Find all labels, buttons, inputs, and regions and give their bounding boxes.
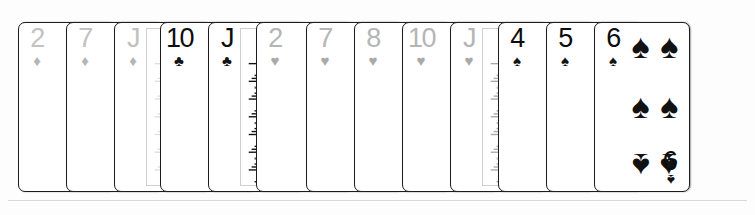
card-6-of-spade[interactable]: 6♠♠♠♠♠♠♠♠9 bbox=[594, 22, 690, 192]
pip-spade-icon: ♠ bbox=[632, 149, 650, 183]
card-index-corner: 8♥ bbox=[360, 25, 386, 68]
card-suit-pip-spade-icon: ♠ bbox=[658, 173, 684, 188]
card-fan-stage: 2♦♦7♦♦♦♦J♦♦10♣♣♣♣♣J♣♣2♥♥7♥♥♥♥8♥♥♥♥10♥♥♥♥… bbox=[0, 0, 755, 215]
card-suit-pip-club-icon: ♣ bbox=[214, 53, 240, 68]
card-suit-pip-diamond-icon: ♦ bbox=[120, 53, 146, 68]
card-rank-label: 2 bbox=[262, 25, 288, 52]
card-rank-label: 4 bbox=[504, 25, 530, 52]
pip-spade-icon: ♠ bbox=[632, 89, 650, 123]
card-rank-label: 10 bbox=[408, 25, 434, 52]
card-suit-pip-club-icon: ♣ bbox=[166, 53, 192, 68]
card-suit-pip-diamond-icon: ♦ bbox=[72, 53, 98, 68]
card-suit-pip-heart-icon: ♥ bbox=[262, 53, 288, 68]
card-rank-label: 7 bbox=[72, 25, 98, 52]
card-rank-label: 5 bbox=[552, 25, 578, 52]
card-rank-label: J bbox=[214, 25, 240, 52]
card-rank-label: 10 bbox=[166, 25, 192, 52]
card-suit-pip-diamond-icon: ♦ bbox=[24, 53, 50, 68]
card-index-corner: 7♥ bbox=[312, 25, 338, 68]
card-rank-label: 6 bbox=[600, 25, 626, 52]
card-index-corner: 6♠ bbox=[600, 25, 626, 68]
card-rank-label: 2 bbox=[24, 25, 50, 52]
card-index-corner: 5♠ bbox=[552, 25, 578, 68]
card-index-corner: 4♠ bbox=[504, 25, 530, 68]
card-index-corner: 7♦ bbox=[72, 25, 98, 68]
card-suit-pip-heart-icon: ♥ bbox=[312, 53, 338, 68]
card-index-corner-rotated: ♠9 bbox=[658, 146, 684, 189]
card-index-corner: J♣ bbox=[214, 25, 240, 68]
pip-spade-icon: ♠ bbox=[660, 29, 678, 63]
card-rank-label: J bbox=[456, 25, 482, 52]
card-suit-pip-spade-icon: ♠ bbox=[600, 53, 626, 68]
pip-spade-icon: ♠ bbox=[632, 29, 650, 63]
card-index-corner: 10♥ bbox=[408, 25, 434, 68]
card-suit-pip-heart-icon: ♥ bbox=[408, 53, 434, 68]
card-index-corner: 2♥ bbox=[262, 25, 288, 68]
card-index-corner: J♦ bbox=[120, 25, 146, 68]
card-suit-pip-heart-icon: ♥ bbox=[456, 53, 482, 68]
card-rank-label: J bbox=[120, 25, 146, 52]
card-suit-pip-spade-icon: ♠ bbox=[552, 53, 578, 68]
card-index-corner: 2♦ bbox=[24, 25, 50, 68]
pip-spade-icon: ♠ bbox=[660, 89, 678, 123]
card-rank-label: 7 bbox=[312, 25, 338, 52]
card-rank-label: 8 bbox=[360, 25, 386, 52]
table-baseline bbox=[8, 200, 747, 201]
card-rank-label-rotated: 9 bbox=[658, 146, 684, 173]
card-suit-pip-spade-icon: ♠ bbox=[504, 53, 530, 68]
card-index-corner: J♥ bbox=[456, 25, 482, 68]
card-index-corner: 10♣ bbox=[166, 25, 192, 68]
card-suit-pip-heart-icon: ♥ bbox=[360, 53, 386, 68]
